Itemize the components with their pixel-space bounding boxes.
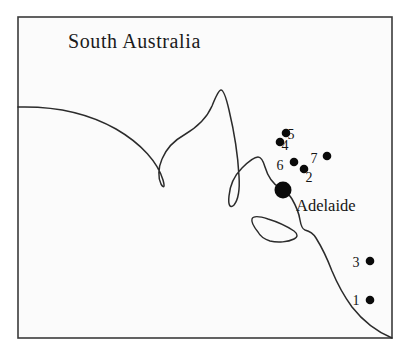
site-label-1: 1 [353, 293, 360, 308]
adelaide-dot[interactable] [275, 182, 292, 199]
site-dot-7[interactable] [323, 152, 332, 161]
site-label-6: 6 [277, 158, 284, 173]
site-label-3: 3 [353, 255, 360, 270]
site-dot-1[interactable] [366, 296, 375, 305]
site-label-7: 7 [311, 151, 318, 166]
map-figure: South Australia 1 2 3 4 5 [0, 0, 407, 353]
map-canvas: South Australia 1 2 3 4 5 [0, 0, 407, 353]
site-dot-6[interactable] [290, 158, 299, 167]
site-label-2: 2 [306, 170, 313, 185]
site-dot-3[interactable] [366, 257, 375, 266]
adelaide-label: Adelaide [296, 196, 356, 215]
site-label-5: 5 [288, 127, 295, 142]
region-title: South Australia [68, 30, 201, 52]
map-border-frame [18, 17, 392, 338]
